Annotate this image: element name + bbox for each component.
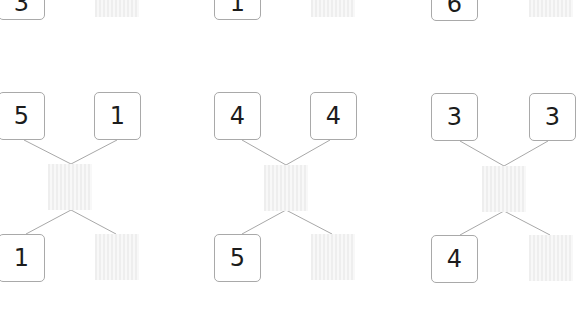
top-left-number-box: 3 xyxy=(431,93,478,141)
partial-number-box-2: 1 xyxy=(214,0,261,20)
connector-lines xyxy=(0,0,577,316)
number-value: 5 xyxy=(14,102,29,130)
bottom-left-number-box: 1 xyxy=(0,234,45,282)
top-left-number-box: 5 xyxy=(0,92,45,140)
number-value: 3 xyxy=(14,0,29,17)
middle-answer-blank[interactable] xyxy=(264,165,308,211)
top-right-number-box: 4 xyxy=(310,92,357,140)
bottom-left-number-box: 5 xyxy=(214,234,261,282)
top-right-number-box: 1 xyxy=(94,92,141,140)
partial-number-box-3: 6 xyxy=(431,0,478,21)
partial-number-box-1: 3 xyxy=(0,0,45,20)
bottom-right-answer-blank[interactable] xyxy=(95,234,139,280)
partial-answer-blank-2[interactable] xyxy=(311,0,355,17)
number-value: 3 xyxy=(447,103,462,131)
number-value: 3 xyxy=(545,103,560,131)
partial-answer-blank-3[interactable] xyxy=(529,0,573,17)
top-left-number-box: 4 xyxy=(214,92,261,140)
bottom-right-answer-blank[interactable] xyxy=(529,235,573,281)
number-value: 6 xyxy=(447,0,462,18)
middle-answer-blank[interactable] xyxy=(482,166,526,212)
number-value: 5 xyxy=(230,244,245,272)
partial-answer-blank-1[interactable] xyxy=(95,0,139,17)
middle-answer-blank[interactable] xyxy=(48,164,92,210)
number-value: 4 xyxy=(326,102,341,130)
bottom-right-answer-blank[interactable] xyxy=(311,234,355,280)
number-value: 1 xyxy=(110,102,125,130)
bottom-left-number-box: 4 xyxy=(431,235,478,283)
number-value: 4 xyxy=(447,245,462,273)
number-value: 1 xyxy=(14,244,29,272)
number-value: 1 xyxy=(230,0,245,17)
number-value: 4 xyxy=(230,102,245,130)
top-right-number-box: 3 xyxy=(529,93,576,141)
